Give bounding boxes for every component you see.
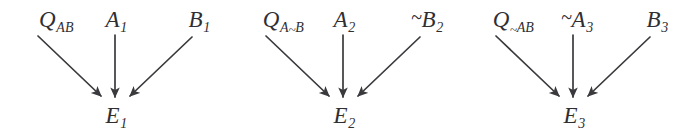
cause-node-q1: QAB [39, 8, 73, 31]
symbol-base: B [646, 7, 660, 32]
cause-node-b2: ~B2 [411, 8, 443, 31]
arrow-q1-to-e1 [38, 36, 101, 96]
edges [38, 35, 650, 97]
symbol-base: B [188, 7, 202, 32]
symbol-base: E [333, 103, 347, 128]
negation-tilde: ~ [289, 22, 296, 37]
arrow-q2-to-e2 [266, 36, 329, 96]
negation-tilde: ~ [561, 6, 571, 28]
symbol-subscript: 3 [578, 116, 585, 131]
cause-node-b3: B3 [646, 8, 667, 31]
symbol-base: Q [263, 7, 280, 32]
arrow-b3-to-e3 [588, 37, 650, 96]
symbol-subscript: A~B [280, 20, 304, 35]
arrow-q3-to-e3 [496, 36, 559, 96]
effect-node-e3: E3 [563, 104, 584, 127]
symbol-subscript: 3 [661, 20, 668, 35]
symbol-base: Q [39, 7, 56, 32]
cause-node-q2: QA~B [263, 8, 303, 31]
symbol-base: A [333, 7, 347, 32]
symbol-subscript: 2 [348, 116, 355, 131]
cause-node-q3: Q~AB [493, 8, 533, 31]
symbol-base: Q [493, 7, 510, 32]
symbol-subscript: 1 [203, 20, 210, 35]
symbol-subscript: 2 [436, 20, 443, 35]
symbol-subscript: ~AB [510, 20, 534, 35]
arrow-b2-to-e2 [358, 37, 420, 96]
symbol-base: A [105, 7, 119, 32]
cause-node-b1: B1 [188, 8, 209, 31]
symbol-base: A [572, 7, 586, 32]
symbol-base: E [105, 103, 119, 128]
diagram-canvas: QABA1B1E1QA~BA2~B2E2Q~AB~A3B3E3 [0, 0, 698, 139]
negation-tilde: ~ [411, 6, 421, 28]
symbol-base: B [422, 7, 436, 32]
symbol-subscript: AB [56, 20, 73, 35]
arrow-b1-to-e1 [130, 37, 192, 96]
cause-node-a1: A1 [105, 8, 126, 31]
symbol-subscript: 1 [120, 20, 127, 35]
symbol-subscript: 1 [120, 116, 127, 131]
symbol-subscript: 2 [348, 20, 355, 35]
negation-tilde: ~ [510, 22, 517, 37]
effect-node-e1: E1 [105, 104, 126, 127]
effect-node-e2: E2 [333, 104, 354, 127]
symbol-base: E [563, 103, 577, 128]
symbol-subscript: 3 [586, 20, 593, 35]
cause-node-a3: ~A3 [561, 8, 593, 31]
cause-node-a2: A2 [333, 8, 354, 31]
